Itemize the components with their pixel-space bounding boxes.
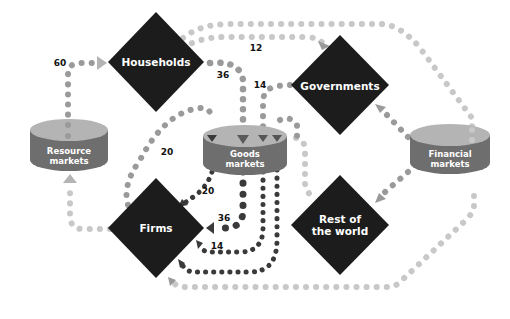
flow-firms-to-resource — [70, 190, 110, 229]
flow-value-14-governments: 14 — [254, 80, 267, 90]
flow-financial-to-governments — [385, 113, 408, 137]
goods-markets-label-line2: markets — [225, 160, 264, 170]
flow-goods-to-firms-14 — [200, 172, 263, 252]
goods-markets-label: Goods markets — [225, 150, 264, 170]
arrow-to-governments-from-financial — [375, 104, 386, 113]
flow-value-12: 12 — [250, 43, 263, 53]
financial-markets-label: Financial markets — [428, 150, 471, 170]
flow-value-36-goods: 36 — [218, 213, 231, 223]
flow-value-20-firms: 20 — [161, 147, 174, 157]
arrow-to-resource-markets — [63, 174, 77, 183]
arrow-goods-firms-14 — [196, 240, 203, 249]
flow-financial-to-rest-of-world — [385, 172, 408, 192]
circular-flow-diagram: Households Governments Firms Rest of the… — [0, 0, 510, 319]
households-label: Households — [122, 56, 191, 68]
flow-value-60: 60 — [54, 58, 67, 68]
rest-of-world-label-line1: Rest of — [312, 213, 368, 225]
flow-value-20-goods: 20 — [202, 186, 215, 196]
arrow-to-households — [97, 56, 107, 70]
firms-label: Firms — [139, 222, 172, 234]
flow-governments-to-goods — [263, 85, 290, 130]
flow-value-36-households: 36 — [217, 70, 230, 80]
arrow-goods-firms-36 — [206, 222, 214, 234]
rest-of-world-label: Rest of the world — [312, 213, 368, 237]
flow-value-14-goods: 14 — [211, 241, 224, 251]
resource-markets-label-line2: markets — [47, 157, 91, 167]
flow-goods-to-rest-of-world — [296, 138, 313, 198]
governments-label: Governments — [300, 80, 379, 92]
resource-markets-label: Resource markets — [47, 147, 91, 167]
financial-markets-label-line2: markets — [428, 160, 471, 170]
rest-of-world-label-line2: the world — [312, 225, 368, 237]
